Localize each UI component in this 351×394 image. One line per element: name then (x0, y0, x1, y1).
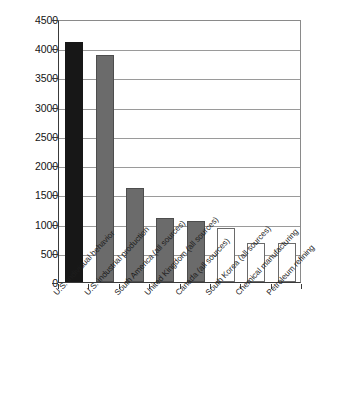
y-tick-label: 2000 (10, 161, 58, 172)
y-tick-label: 0 (10, 278, 58, 289)
y-tick-label: 4500 (10, 15, 58, 26)
y-tick-label: 2500 (10, 132, 58, 143)
gridline (59, 50, 300, 51)
y-tick-label: 3500 (10, 73, 58, 84)
y-tick-label: 1000 (10, 220, 58, 231)
x-tick-mark (301, 284, 302, 289)
y-tick-label: 1500 (10, 190, 58, 201)
y-axis: 050010001500200025003000350040004500 (0, 0, 58, 394)
y-tick-label: 500 (10, 249, 58, 260)
y-tick-label: 3000 (10, 103, 58, 114)
bar-1 (65, 42, 83, 282)
bar-chart-figure: 050010001500200025003000350040004500 U.S… (0, 0, 351, 394)
y-tick-label: 4000 (10, 44, 58, 55)
